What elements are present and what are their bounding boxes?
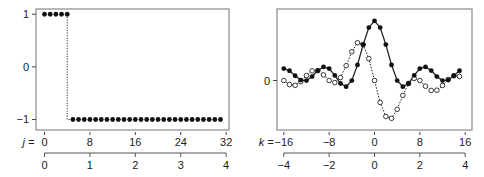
data-point <box>133 117 138 122</box>
data-point <box>161 117 166 122</box>
frequency-domain-plot: 0−16−80816k =−4−2024 <box>259 9 472 171</box>
y-tick-label: 0 <box>23 61 29 73</box>
data-point <box>167 117 172 122</box>
real-data-point <box>451 73 456 78</box>
real-data-point <box>361 42 366 47</box>
imaginary-data-point <box>321 73 326 78</box>
imaginary-data-point <box>287 82 292 87</box>
real-data-point <box>321 64 326 69</box>
real-data-point <box>434 74 439 79</box>
secondary-x-tick-label: −4 <box>278 159 291 171</box>
real-data-point <box>446 78 451 83</box>
real-data-point <box>298 78 303 83</box>
real-data-point <box>293 73 298 78</box>
imaginary-data-point <box>401 93 406 98</box>
x-tick-label: 0 <box>41 136 47 148</box>
imaginary-data-point <box>395 107 400 112</box>
data-point <box>53 12 58 17</box>
real-data-point <box>400 84 405 89</box>
data-point <box>59 12 64 17</box>
real-data-point <box>355 63 360 68</box>
real-data-point <box>457 68 462 73</box>
x-tick-label: 0 <box>371 136 377 148</box>
x-tick-label: 16 <box>129 136 141 148</box>
imaginary-data-point <box>310 69 315 74</box>
imaginary-data-point <box>293 83 298 88</box>
data-point <box>116 117 121 122</box>
data-point <box>105 117 110 122</box>
imaginary-data-point <box>389 116 394 121</box>
real-data-point <box>423 64 428 69</box>
real-data-point <box>372 19 377 24</box>
x-axis-variable-label: k = <box>259 136 275 148</box>
data-point <box>156 117 161 122</box>
x-tick-label: 16 <box>459 136 471 148</box>
secondary-x-tick-label: −2 <box>323 159 336 171</box>
real-data-point <box>366 25 371 30</box>
real-data-point <box>338 81 343 86</box>
real-data-point <box>332 73 337 78</box>
data-point <box>88 117 93 122</box>
data-point <box>207 117 212 122</box>
imaginary-data-point <box>344 63 349 68</box>
secondary-x-tick-label: 4 <box>223 159 229 171</box>
x-tick-label: 8 <box>417 136 423 148</box>
real-data-point <box>412 73 417 78</box>
imaginary-data-point <box>429 88 434 93</box>
x-tick-label: 8 <box>87 136 93 148</box>
plot-frame <box>36 9 229 130</box>
real-data-point <box>327 66 332 71</box>
secondary-x-tick-label: 2 <box>132 159 138 171</box>
data-point <box>212 117 217 122</box>
data-point <box>42 12 47 17</box>
data-point <box>65 12 70 17</box>
data-point <box>70 117 75 122</box>
data-point <box>173 117 178 122</box>
data-point <box>201 117 206 122</box>
data-point <box>139 117 144 122</box>
secondary-x-tick-label: 4 <box>462 159 468 171</box>
imaginary-data-point <box>282 78 287 83</box>
imaginary-part-line <box>284 43 460 119</box>
imaginary-data-point <box>378 100 383 105</box>
plot-frame <box>277 9 472 130</box>
imaginary-data-point <box>440 83 445 88</box>
imaginary-data-point <box>384 114 389 119</box>
imaginary-data-point <box>355 40 360 45</box>
imaginary-data-point <box>372 78 377 83</box>
y-tick-label: 0 <box>264 75 270 87</box>
x-axis-variable-label: j = <box>21 136 36 148</box>
data-point <box>195 117 200 122</box>
real-data-point <box>344 84 349 89</box>
data-point <box>218 117 223 122</box>
real-data-point <box>310 74 315 79</box>
real-data-point <box>406 81 411 86</box>
x-tick-label: −16 <box>274 136 293 148</box>
data-point <box>144 117 149 122</box>
imaginary-data-point <box>367 56 372 61</box>
figure: 10−108162432j =01234 0−16−80816k =−4−202… <box>0 0 484 177</box>
data-point <box>48 12 53 17</box>
time-domain-plot: 10−108162432j =01234 <box>16 8 232 171</box>
real-data-point <box>395 78 400 83</box>
imaginary-data-point <box>423 84 428 89</box>
real-data-point <box>378 25 383 30</box>
data-point <box>184 117 189 122</box>
imaginary-data-point <box>327 78 332 83</box>
secondary-x-tick-label: 0 <box>371 159 377 171</box>
data-point <box>122 117 127 122</box>
imaginary-data-point <box>435 88 440 93</box>
imaginary-data-point <box>338 75 343 80</box>
data-point <box>127 117 132 122</box>
x-tick-label: 32 <box>220 136 232 148</box>
secondary-x-tick-label: 3 <box>178 159 184 171</box>
data-point <box>110 117 115 122</box>
real-data-point <box>429 68 434 73</box>
real-data-point <box>383 42 388 47</box>
secondary-x-tick-label: 2 <box>417 159 423 171</box>
data-point <box>82 117 87 122</box>
imaginary-data-point <box>418 78 423 83</box>
y-tick-label: 1 <box>23 8 29 20</box>
real-data-point <box>281 66 286 71</box>
imaginary-data-point <box>333 80 338 85</box>
